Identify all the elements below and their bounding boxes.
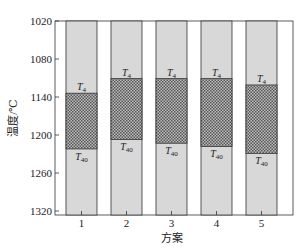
x-tick-label: 4 (214, 217, 220, 229)
bar-group: T4T405 (246, 21, 277, 229)
bar-range (66, 93, 97, 149)
bars: T4T401T4T402T4T403T4T404T4T405 (66, 21, 277, 229)
y-tick-label: 1260 (30, 167, 53, 179)
x-tick-label: 1 (79, 217, 85, 229)
x-tick-label: 2 (124, 217, 130, 229)
y-tick-label: 1200 (30, 129, 53, 141)
bar-range (156, 79, 187, 144)
x-axis-label: 方案 (161, 231, 183, 244)
bar-group: T4T401 (66, 21, 97, 229)
bar-group: T4T402 (111, 21, 142, 229)
x-tick-label: 5 (259, 217, 265, 229)
bar-group: T4T404 (201, 21, 232, 229)
y-tick-label: 1140 (30, 91, 52, 103)
bar-range (201, 79, 232, 147)
bar-group: T4T403 (156, 21, 187, 229)
bar-range (111, 79, 142, 140)
y-axis-label: 温度/℃ (6, 99, 19, 136)
y-tick-label: 1080 (30, 53, 53, 65)
bar-range (246, 85, 277, 153)
y-tick-label: 1020 (30, 15, 53, 27)
y-tick-label: 1320 (30, 205, 53, 217)
chart: 102010801140120012601320 T4T401T4T402T4T… (0, 0, 306, 249)
x-tick-label: 3 (169, 217, 175, 229)
